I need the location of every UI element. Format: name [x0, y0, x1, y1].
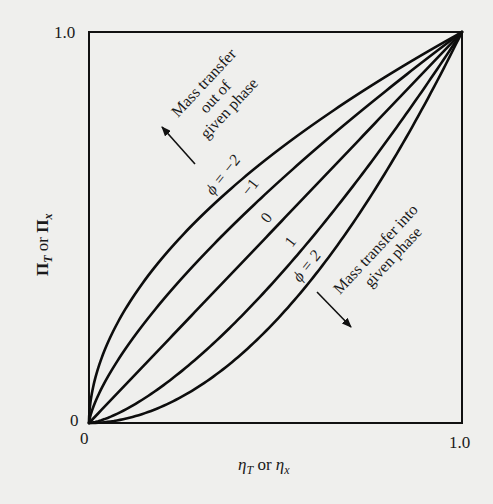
label-phi-2: ϕ = 2	[289, 247, 325, 286]
diagram-canvas: 1.0 0 0 1.0 ηT or ηx ΠT or Πx ϕ = −2 −1 …	[0, 0, 493, 504]
svg-text:ϕ = 2: ϕ = 2	[289, 247, 325, 286]
x-tick-1: 1.0	[449, 433, 470, 452]
annotation-mass-transfer-into: Mass transfer into given phase	[317, 201, 435, 327]
label-phi-minus-2: ϕ = −2	[202, 151, 244, 198]
svg-text:0: 0	[257, 209, 275, 226]
annotation-mass-transfer-out: Mass transfer out of given phase	[162, 45, 267, 164]
y-tick-1: 1.0	[54, 23, 75, 42]
label-1: 1	[281, 233, 299, 250]
label-0: 0	[257, 209, 275, 226]
svg-text:ϕ = −2: ϕ = −2	[202, 151, 244, 198]
x-axis-label: ηT or ηx	[238, 455, 290, 477]
x-tick-0: 0	[80, 429, 89, 448]
y-axis-label: ΠT or Πx	[33, 214, 55, 276]
svg-text:1: 1	[281, 233, 299, 250]
arrow-down-right-icon	[317, 292, 351, 327]
arrow-up-left-icon	[162, 127, 195, 164]
y-tick-0: 0	[70, 411, 79, 430]
